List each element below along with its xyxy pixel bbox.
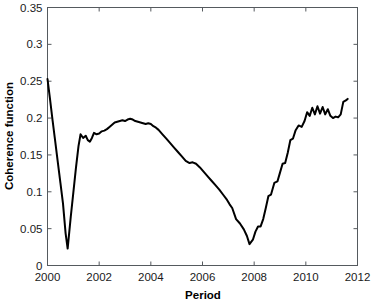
x-tick-label: 2000 (35, 271, 61, 283)
x-axis-title: Period (185, 289, 221, 301)
y-tick-label: 0.15 (20, 149, 42, 161)
x-tick-label: 2008 (241, 271, 267, 283)
x-tick-label: 2006 (190, 271, 216, 283)
y-tick-label: 0.1 (27, 186, 43, 198)
y-tick-label: 0.25 (20, 75, 42, 87)
tick-marks (48, 8, 358, 266)
x-tick-label: 2002 (86, 271, 112, 283)
y-tick-label: 0.3 (27, 38, 43, 50)
y-tick-label: 0.2 (27, 112, 43, 124)
x-tick-label: 2012 (345, 271, 371, 283)
y-tick-labels: 00.050.10.150.20.250.30.35 (20, 2, 42, 272)
plot-area-border (48, 8, 358, 266)
x-tick-label: 2004 (138, 271, 164, 283)
x-tick-label: 2010 (293, 271, 319, 283)
chart-canvas: 00.050.10.150.20.250.30.35 2000200220042… (0, 0, 372, 305)
y-axis-title: Coherence function (3, 82, 15, 190)
axis-frame (48, 8, 358, 266)
x-tick-labels: 2000200220042006200820102012 (35, 271, 371, 283)
y-tick-label: 0.05 (20, 223, 42, 235)
coherence-function-line (48, 79, 348, 249)
coherence-function-chart-figure: 00.050.10.150.20.250.30.35 2000200220042… (0, 0, 372, 305)
y-tick-label: 0.35 (20, 2, 42, 14)
